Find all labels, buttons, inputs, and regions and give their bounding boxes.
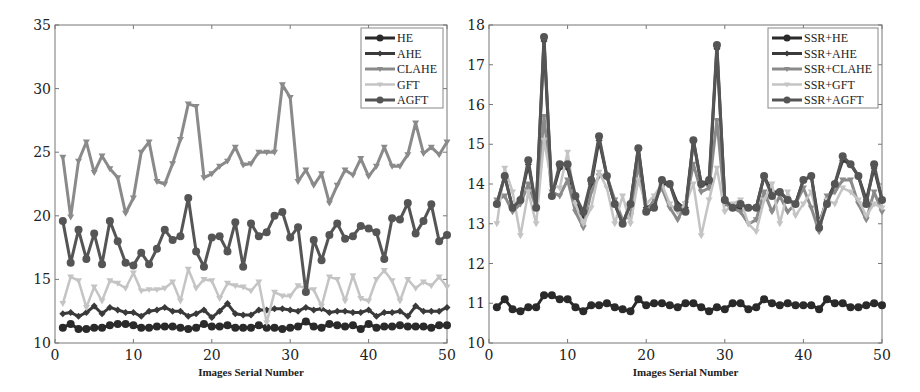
chart-right-ssr-methods: 01020304050101112131415161718Images Seri… <box>460 0 920 392</box>
y-tick-label: 18 <box>467 17 485 33</box>
x-tick-label: 10 <box>124 347 142 363</box>
x-tick-label: 30 <box>716 347 734 363</box>
chart-right-svg: 01020304050101112131415161718Images Seri… <box>460 0 920 392</box>
legend-label: HE <box>397 31 413 45</box>
series-gft <box>59 267 450 326</box>
legend-label: AHE <box>397 47 422 61</box>
x-tick-label: 10 <box>559 347 577 363</box>
y-tick-label: 30 <box>33 81 51 97</box>
x-axis-title: Images Serial Number <box>633 366 739 378</box>
legend-label: AGFT <box>397 93 429 107</box>
legend-label: GFT <box>397 78 420 92</box>
legend-label: SSR+GFT <box>804 78 855 92</box>
legend-label: CLAHE <box>397 62 437 76</box>
series-ahe <box>59 300 450 321</box>
x-tick-label: 40 <box>360 347 378 363</box>
y-tick-label: 25 <box>33 144 51 160</box>
y-tick-label: 12 <box>467 256 485 272</box>
legend-label: SSR+AGFT <box>804 93 864 107</box>
x-tick-label: 0 <box>51 347 60 363</box>
x-tick-label: 50 <box>438 347 456 363</box>
legend: HEAHECLAHEGFTAGFT <box>361 28 443 108</box>
y-tick-label: 17 <box>467 57 485 73</box>
y-tick-label: 15 <box>33 271 51 287</box>
y-tick-label: 14 <box>467 176 485 192</box>
x-tick-label: 40 <box>794 347 812 363</box>
y-tick-label: 35 <box>33 17 51 33</box>
legend-label: SSR+AHE <box>804 47 857 61</box>
y-tick-label: 16 <box>467 97 485 113</box>
x-tick-label: 20 <box>637 347 655 363</box>
series-ssr-he <box>493 291 886 315</box>
x-tick-label: 20 <box>203 347 221 363</box>
chart-left-enhancement-methods: 01020304050101520253035Images Serial Num… <box>0 0 460 392</box>
series-he <box>59 317 451 333</box>
y-tick-label: 13 <box>467 216 485 232</box>
x-tick-label: 0 <box>485 347 494 363</box>
y-tick-label: 10 <box>467 335 485 351</box>
y-tick-label: 11 <box>467 295 485 311</box>
legend-label: SSR+HE <box>804 31 848 45</box>
legend: SSR+HESSR+AHESSR+CLAHESSR+GFTSSR+AGFT <box>768 28 878 108</box>
x-tick-label: 30 <box>281 347 299 363</box>
y-tick-label: 15 <box>467 136 485 152</box>
chart-left-svg: 01020304050101520253035Images Serial Num… <box>0 0 460 392</box>
y-tick-label: 10 <box>33 335 51 351</box>
x-tick-label: 50 <box>873 347 891 363</box>
legend-label: SSR+CLAHE <box>804 62 872 76</box>
x-axis-title: Images Serial Number <box>198 366 304 378</box>
y-tick-label: 20 <box>33 208 51 224</box>
